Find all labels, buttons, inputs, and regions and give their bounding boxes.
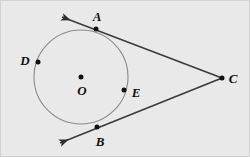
point-label-O: O	[77, 84, 86, 97]
point-label-B: B	[96, 135, 105, 148]
point-dot-C	[220, 76, 225, 81]
point-dot-A	[94, 27, 99, 32]
point-dot-B	[95, 125, 100, 130]
point-label-A: A	[93, 10, 102, 23]
point-label-D: D	[20, 54, 29, 67]
point-dot-O	[79, 75, 84, 80]
point-label-E: E	[132, 86, 141, 99]
point-label-C: C	[229, 72, 238, 85]
geometry-canvas	[0, 0, 250, 157]
geometry-figure: ABCDEO	[0, 0, 250, 157]
figure-background	[1, 1, 250, 157]
point-dot-D	[36, 60, 41, 65]
point-dot-E	[122, 88, 127, 93]
